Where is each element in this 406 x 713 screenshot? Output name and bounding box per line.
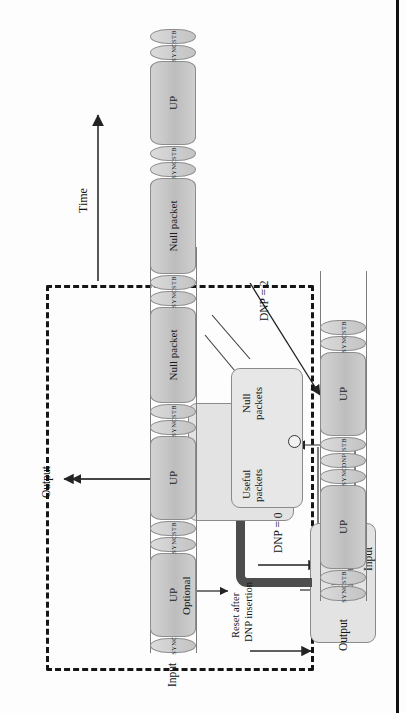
input-packet-header-label-14: SYNC bbox=[170, 43, 177, 62]
input-packet-packet-label-13: UP bbox=[167, 96, 179, 110]
input-packet-header-2: SYNC bbox=[150, 537, 196, 552]
useful-packets-label-line2: packets bbox=[252, 469, 264, 502]
input-packet-header-3: STB bbox=[150, 521, 196, 536]
input-packet-header-12: STB bbox=[150, 146, 196, 161]
input-packet-header-5: SYNC bbox=[150, 420, 196, 435]
output-packet-header-3: SYNC bbox=[320, 469, 366, 484]
input-packet-header-label-3: STB bbox=[170, 522, 177, 535]
page-edge-rule bbox=[396, 0, 399, 713]
output-packet-packet-2: UP bbox=[320, 485, 366, 569]
rotated-figure-canvas: DNP counter DNP (1 byte) insertion after… bbox=[0, 0, 406, 713]
output-chain-rail-bottom bbox=[366, 271, 367, 601]
input-packet-header-label-11: SYNC bbox=[170, 160, 177, 179]
output-packet-header-8: STB bbox=[320, 320, 366, 335]
null-packets-label-line2: packets bbox=[252, 387, 264, 420]
output-packet-header-1: STB bbox=[320, 570, 366, 585]
output-packet-header-5: STB bbox=[320, 437, 366, 452]
input-packet-header-14: SYNC bbox=[150, 45, 196, 60]
input-packet-header-label-9: STB bbox=[170, 276, 177, 289]
block-output-label: Output bbox=[40, 466, 52, 498]
input-packet-packet-13: UP bbox=[150, 61, 196, 145]
output-packet-header-label-1: STB bbox=[340, 571, 347, 584]
input-packet-packet-label-4: UP bbox=[167, 471, 179, 485]
input-packet-header-label-6: STB bbox=[170, 405, 177, 418]
input-packet-header-label-15: STB bbox=[170, 30, 177, 43]
timing-input-label: Input bbox=[166, 663, 178, 687]
input-packet-header-11: SYNC bbox=[150, 162, 196, 177]
classifier-split-node bbox=[288, 435, 301, 448]
input-packet-packet-label-10: Null packet bbox=[167, 201, 179, 252]
output-packet-header-0: SYNC bbox=[320, 586, 366, 601]
input-packet-header-label-8: SYNC bbox=[170, 289, 177, 308]
input-packet-header-9: STB bbox=[150, 275, 196, 290]
input-packet-chain: SYNCUPSYNCSTBUPSYNCSTBNull packetSYNCSTB… bbox=[150, 28, 196, 653]
reset-label-line2: DNP insertion bbox=[243, 582, 254, 642]
output-packet-chain: SYNCSTBUPSYNCDNPSTBUPSYNCSTB bbox=[320, 319, 366, 601]
input-packet-packet-7: Null packet bbox=[150, 307, 196, 403]
figure-page: DNP counter DNP (1 byte) insertion after… bbox=[0, 0, 406, 713]
useful-packets-label-line1: Useful bbox=[240, 470, 252, 499]
output-packet-header-label-5: STB bbox=[340, 438, 347, 451]
input-packet-header-0: SYNC bbox=[150, 638, 196, 653]
output-packet-header-7: SYNC bbox=[320, 336, 366, 351]
time-axis-label: Time bbox=[76, 188, 91, 213]
timing-output-label: Output bbox=[337, 619, 349, 651]
reset-label-line1: Reset after bbox=[230, 593, 241, 638]
input-packet-header-6: STB bbox=[150, 404, 196, 419]
output-packet-packet-label-6: UP bbox=[337, 387, 349, 401]
output-packet-header-label-8: STB bbox=[340, 321, 347, 334]
input-packet-packet-label-7: Null packet bbox=[167, 330, 179, 381]
input-packet-header-15: STB bbox=[150, 29, 196, 44]
dnp2-annotation: DNP = 2 bbox=[258, 280, 270, 321]
output-packet-header-label-7: SYNC bbox=[340, 334, 347, 353]
output-packet-header-4: DNP bbox=[320, 453, 366, 468]
input-packet-packet-10: Null packet bbox=[150, 178, 196, 274]
input-packet-header-label-12: STB bbox=[170, 147, 177, 160]
input-packet-header-8: SYNC bbox=[150, 291, 196, 306]
input-chain-rail-bottom bbox=[196, 247, 197, 653]
input-packet-packet-4: UP bbox=[150, 436, 196, 520]
output-packet-packet-label-2: UP bbox=[337, 520, 349, 534]
output-packet-header-label-0: SYNC bbox=[340, 584, 347, 603]
input-packet-header-label-0: SYNC bbox=[170, 636, 177, 655]
output-packet-packet-6: UP bbox=[320, 352, 366, 436]
input-packet-packet-label-1: UP bbox=[167, 588, 179, 602]
optional-label: Optional bbox=[180, 577, 192, 616]
input-packet-header-label-5: SYNC bbox=[170, 418, 177, 437]
output-packet-header-label-3: SYNC bbox=[340, 467, 347, 486]
input-packet-header-label-2: SYNC bbox=[170, 535, 177, 554]
output-packet-header-label-4: DNP bbox=[340, 454, 347, 468]
null-packets-label-line1: Null bbox=[240, 393, 252, 413]
dnp0-annotation: DNP = 0 bbox=[272, 512, 284, 553]
